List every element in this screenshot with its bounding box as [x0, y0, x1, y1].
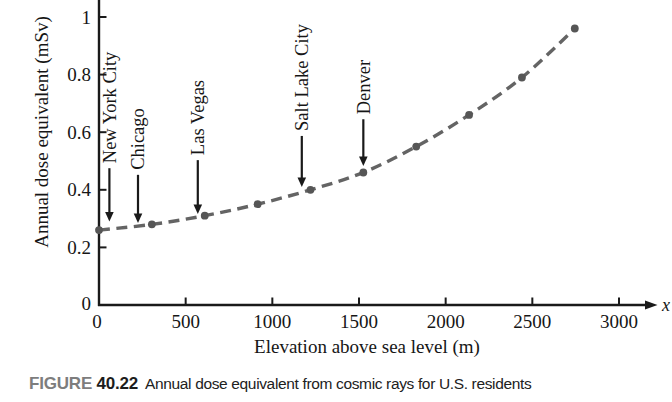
y-tick-label: 0.8: [67, 64, 91, 85]
data-point: [307, 186, 315, 194]
x-axis-label: Elevation above sea level (m): [254, 336, 480, 358]
figure-tag: FIGURE: [29, 374, 92, 393]
city-arrowhead-icon: [134, 213, 143, 223]
city-label: Denver: [354, 60, 374, 114]
y-tick-label: 0: [82, 293, 92, 314]
data-point: [254, 200, 262, 208]
y-tick-label: 0.4: [67, 179, 91, 200]
data-point: [571, 25, 579, 33]
city-label: New York City: [100, 51, 120, 163]
data-point: [518, 74, 526, 82]
city-arrowhead-icon: [298, 177, 307, 187]
x-tick-label: 500: [171, 311, 200, 332]
city-label: Salt Lake City: [292, 23, 312, 131]
dose-elevation-chart: x00.20.40.60.81050010001500200025003000A…: [0, 0, 672, 368]
y-tick-label: 1: [82, 7, 92, 28]
data-point: [201, 212, 209, 220]
figure-number: 40.22: [96, 374, 138, 393]
x-axis-symbol: x: [661, 295, 670, 315]
x-tick-label: 2500: [513, 311, 551, 332]
data-point: [412, 143, 420, 151]
city-label: Las Vegas: [188, 80, 208, 155]
y-tick-label: 0.6: [67, 122, 91, 143]
y-tick-label: 0.2: [67, 237, 91, 258]
data-point: [359, 169, 367, 177]
data-point: [148, 220, 156, 228]
x-axis-arrowhead-icon: [645, 300, 658, 309]
city-label: Chicago: [128, 108, 148, 170]
city-arrowhead-icon: [105, 212, 114, 222]
x-tick-label: 2000: [427, 311, 465, 332]
x-tick-label: 1000: [253, 311, 291, 332]
city-arrowhead-icon: [194, 204, 203, 214]
y-axis-label: Annual dose equivalent (mSv): [31, 16, 53, 248]
dose-curve: [99, 29, 575, 231]
data-point: [95, 226, 103, 234]
city-arrowhead-icon: [359, 156, 368, 166]
data-point: [465, 111, 473, 119]
figure-40-22: x00.20.40.60.81050010001500200025003000A…: [0, 0, 672, 402]
x-tick-label: 0: [92, 311, 102, 332]
figure-caption-text: Annual dose equivalent from cosmic rays …: [145, 375, 531, 392]
x-tick-label: 1500: [340, 311, 378, 332]
figure-caption: FIGURE 40.22Annual dose equivalent from …: [29, 374, 669, 394]
x-tick-label: 3000: [600, 311, 638, 332]
